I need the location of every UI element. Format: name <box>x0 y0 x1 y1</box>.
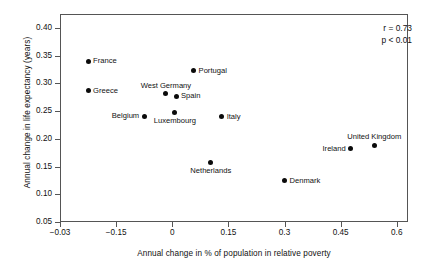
x-tick-label: −0.03 <box>39 229 81 237</box>
y-tick-mark <box>55 83 60 84</box>
statistics-annotation: r = 0.73 p < 0.01 <box>381 22 412 46</box>
x-tick-mark <box>341 222 342 227</box>
x-tick-label: 0 <box>151 229 193 237</box>
y-tick-label: 0.20 <box>20 135 52 143</box>
y-tick-label: 0.35 <box>20 52 52 60</box>
data-point-label: Denmark <box>290 177 321 185</box>
data-point-label: Portugal <box>199 67 227 75</box>
data-point-marker[interactable] <box>208 160 213 165</box>
y-tick-label: 0.05 <box>20 218 52 226</box>
correlation-value: r = 0.73 <box>381 22 412 34</box>
data-point-marker[interactable] <box>372 143 377 148</box>
x-tick-mark <box>285 222 286 227</box>
data-point-label: West Germany <box>141 82 192 90</box>
y-tick-mark <box>55 28 60 29</box>
data-point-marker[interactable] <box>142 114 147 119</box>
data-point-label: Luxembourg <box>154 117 196 125</box>
y-tick-mark <box>55 139 60 140</box>
y-tick-label: 0.15 <box>20 163 52 171</box>
x-tick-label: 0.6 <box>376 229 418 237</box>
data-point-label: Netherlands <box>190 167 231 175</box>
x-tick-label: 0.3 <box>264 229 306 237</box>
data-point-label: Spain <box>181 92 200 100</box>
data-point-marker[interactable] <box>86 59 91 64</box>
data-point-label: France <box>93 58 117 66</box>
y-tick-mark <box>55 167 60 168</box>
x-tick-label: 0.15 <box>207 229 249 237</box>
data-point-label: Italy <box>227 113 241 121</box>
x-tick-mark <box>116 222 117 227</box>
data-point-label: Ireland <box>323 145 346 153</box>
data-point-label: United Kingdom <box>347 133 401 141</box>
data-point-label: Greece <box>93 87 118 95</box>
x-tick-mark <box>228 222 229 227</box>
x-tick-label: 0.45 <box>320 229 362 237</box>
x-tick-mark <box>172 222 173 227</box>
p-value: p < 0.01 <box>381 34 412 46</box>
x-tick-label: −0.15 <box>95 229 137 237</box>
data-point-marker[interactable] <box>86 88 91 93</box>
y-tick-label: 0.30 <box>20 79 52 87</box>
x-tick-mark <box>397 222 398 227</box>
data-point-marker[interactable] <box>174 94 179 99</box>
data-point-label: Belgium <box>112 112 139 120</box>
y-tick-label: 0.25 <box>20 107 52 115</box>
y-tick-mark <box>55 111 60 112</box>
x-tick-mark <box>60 222 61 227</box>
scatter-plot-figure: Annual change in life expectancy (years)… <box>0 0 422 267</box>
y-tick-label: 0.40 <box>20 24 52 32</box>
y-tick-mark <box>55 56 60 57</box>
y-tick-mark <box>55 194 60 195</box>
y-tick-label: 0.10 <box>20 190 52 198</box>
x-axis-title: Annual change in % of population in rela… <box>60 249 408 258</box>
